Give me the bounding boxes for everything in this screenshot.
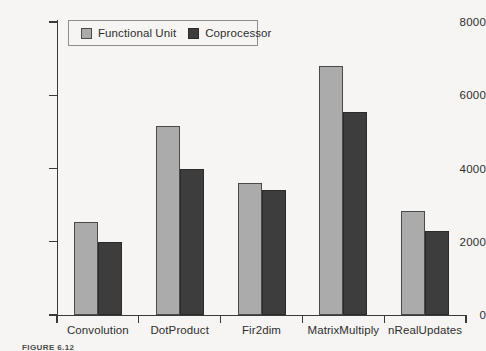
bar-convolution-functional-unit [74, 222, 98, 315]
x-axis-tick [56, 315, 57, 323]
y-axis-tick [49, 241, 57, 242]
bar-matrixmultiply-functional-unit [319, 66, 343, 315]
x-axis-tick [465, 315, 466, 323]
x-axis-tick [138, 315, 139, 323]
x-axis-label-dotproduct: DotProduct [150, 324, 209, 336]
chart-legend: Functional Unit Coprocessor [68, 20, 258, 46]
x-axis-label-matrixmultiply: MatrixMultiply [307, 324, 379, 336]
y-axis-tick [49, 168, 57, 169]
figure-bar-chart: 02000400060008000 ConvolutionDotProductF… [0, 0, 486, 351]
x-axis-tick [220, 315, 221, 323]
x-axis-label-fir2dim: Fir2dim [242, 324, 281, 336]
bar-dotproduct-coprocessor [180, 169, 204, 316]
x-axis-label-nrealupdates: nRealUpdates [388, 324, 462, 336]
bar-matrixmultiply-coprocessor [343, 112, 367, 315]
bar-convolution-coprocessor [98, 242, 122, 315]
legend-item-functional-unit: Functional Unit [81, 27, 176, 39]
legend-swatch-icon-functional-unit [81, 28, 92, 39]
bar-nrealupdates-coprocessor [425, 231, 449, 315]
legend-label-coprocessor: Coprocessor [205, 27, 271, 39]
legend-label-functional-unit: Functional Unit [98, 27, 176, 39]
figure-caption: FIGURE 6.12 [22, 343, 74, 351]
bar-dotproduct-functional-unit [156, 126, 180, 315]
legend-item-coprocessor: Coprocessor [188, 27, 271, 39]
plot-area [57, 22, 466, 315]
legend-swatch-icon-coprocessor [188, 28, 199, 39]
x-axis-tick [384, 315, 385, 323]
x-axis-tick [302, 315, 303, 323]
x-axis-label-convolution: Convolution [67, 324, 129, 336]
bar-nrealupdates-functional-unit [401, 211, 425, 315]
bar-fir2dim-coprocessor [262, 190, 286, 315]
y-axis-tick [49, 95, 57, 96]
y-axis-tick [49, 21, 57, 22]
bar-fir2dim-functional-unit [238, 183, 262, 315]
